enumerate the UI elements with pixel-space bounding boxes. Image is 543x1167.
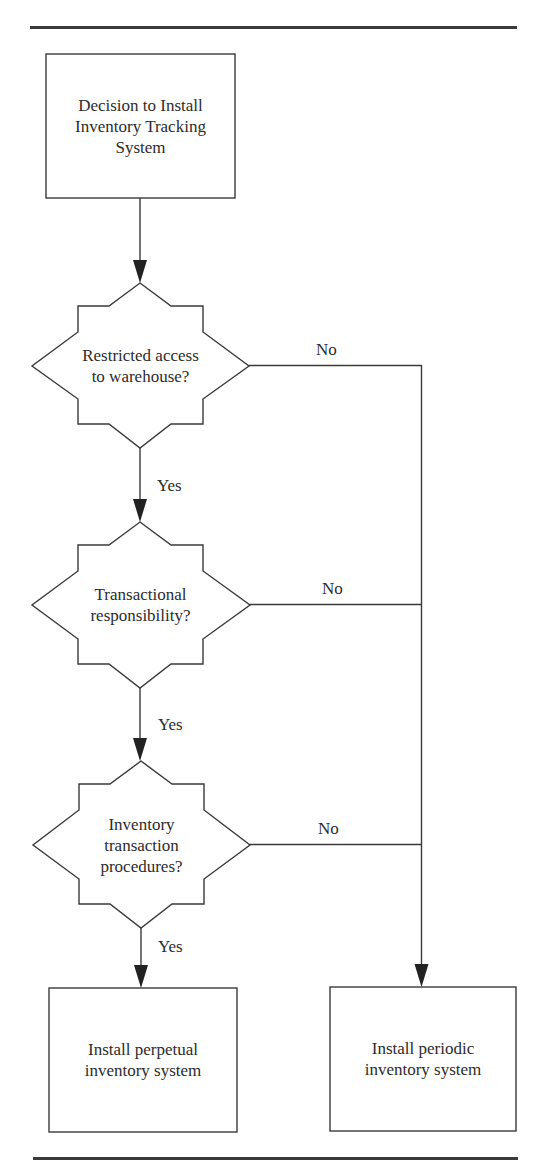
decision-d2-label: Transactional responsibility? <box>50 565 231 645</box>
decision-d1-label: Restricted access to warehouse? <box>50 326 231 406</box>
edge-label-d1-yes: Yes <box>157 477 182 495</box>
start-label: Decision to Install Inventory Tracking S… <box>46 54 235 198</box>
edge-label-d3-no: No <box>318 820 339 838</box>
edge-label-d2-yes: Yes <box>158 716 183 734</box>
edge-label-d3-yes: Yes <box>158 938 183 956</box>
arrowhead-icon <box>133 499 147 522</box>
arrowhead-icon <box>133 738 147 761</box>
arrowhead-icon <box>415 964 429 987</box>
periodic-label: Install periodic inventory system <box>330 987 516 1131</box>
arrowhead-icon <box>133 260 147 283</box>
arrowhead-icon <box>134 965 148 988</box>
decision-d3-label: Inventory transaction procedures? <box>51 803 232 887</box>
perpetual-label: Install perpetual inventory system <box>49 988 237 1132</box>
edge-label-d1-no: No <box>316 341 337 359</box>
edge-label-d2-no: No <box>322 580 343 598</box>
